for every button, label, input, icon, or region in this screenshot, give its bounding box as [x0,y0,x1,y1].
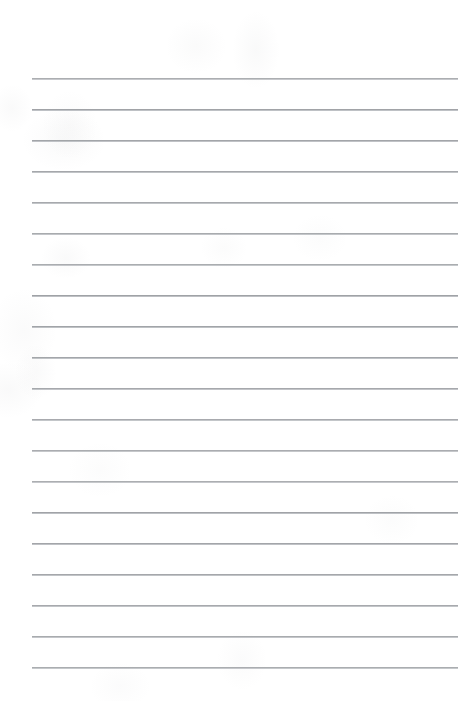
writing-area[interactable] [32,78,458,668]
ruled-paper-page [0,0,474,701]
